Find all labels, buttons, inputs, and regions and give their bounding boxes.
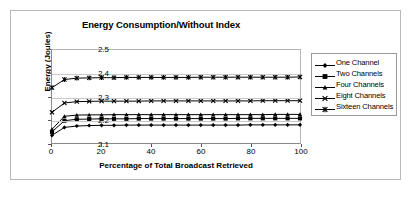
data-point-square: [112, 117, 116, 121]
figure-frame: Energy Consumption/Without Index Energy …: [10, 10, 401, 180]
data-point-diamond: [286, 123, 290, 127]
data-point-diamond: [137, 123, 141, 127]
legend-item-sixteen-channels[interactable]: Sixteen Channels: [314, 101, 394, 112]
data-point-square: [174, 117, 178, 121]
data-point-square: [186, 117, 190, 121]
data-point-diamond: [174, 123, 178, 127]
x-tick-label: 80: [236, 147, 266, 156]
x-tick-label: 20: [86, 147, 116, 156]
data-point-square: [236, 116, 240, 120]
x-tick-mark: [201, 144, 202, 147]
plot-wrapper: Energy (Joules) 2.12.22.32.42.5020406080…: [11, 11, 402, 181]
y-tick-mark: [48, 73, 51, 74]
data-point-x: [50, 110, 54, 114]
data-point-square: [124, 117, 128, 121]
x-tick-mark: [151, 144, 152, 147]
x-tick-mark: [301, 144, 302, 147]
legend-marker-diamond-icon: [314, 57, 336, 68]
data-point-square: [199, 117, 203, 121]
data-point-diamond: [124, 123, 128, 127]
data-point-square: [149, 117, 153, 121]
y-tick-mark: [48, 97, 51, 98]
x-tick-label: 40: [136, 147, 166, 156]
legend-label: Sixteen Channels: [336, 101, 393, 112]
x-tick-label: 100: [286, 147, 316, 156]
data-point-diamond: [149, 123, 153, 127]
legend-marker-triangle-icon: [314, 79, 336, 90]
data-point-square: [261, 116, 265, 120]
series-line: [52, 101, 300, 113]
data-point-asterisk: [50, 85, 54, 90]
legend-label: Eight Channels: [336, 90, 385, 101]
legend-label: One Channel: [336, 57, 379, 68]
legend-label: Two Channels: [336, 68, 382, 79]
data-point-diamond: [236, 123, 240, 127]
data-point-diamond: [186, 123, 190, 127]
data-point-square: [211, 117, 215, 121]
x-tick-label: 0: [36, 147, 66, 156]
x-tick-mark: [251, 144, 252, 147]
y-tick-label: 2.4: [69, 68, 109, 77]
data-point-diamond: [162, 123, 166, 127]
legend-marker-x-icon: [314, 90, 336, 101]
data-point-diamond: [261, 123, 265, 127]
data-point-square: [286, 116, 290, 120]
chart-legend: One ChannelTwo ChannelsFour ChannelsEigh…: [311, 53, 397, 116]
data-point-diamond: [224, 123, 228, 127]
y-tick-label: 2.2: [69, 116, 109, 125]
data-point-square: [137, 117, 141, 121]
x-tick-mark: [51, 144, 52, 147]
y-tick-mark: [48, 120, 51, 121]
legend-item-two-channels[interactable]: Two Channels: [314, 68, 394, 79]
legend-item-eight-channels[interactable]: Eight Channels: [314, 90, 394, 101]
x-axis-label: Percentage of Total Broadcast Retrieved: [51, 161, 301, 170]
y-tick-mark: [48, 49, 51, 50]
legend-marker-asterisk-icon: [314, 101, 336, 112]
data-point-diamond: [112, 123, 116, 127]
series-one-channel: [50, 123, 302, 138]
legend-item-one-channel[interactable]: One Channel: [314, 57, 394, 68]
data-point-square: [298, 116, 302, 120]
data-point-square: [162, 117, 166, 121]
legend-label: Four Channels: [336, 79, 384, 90]
x-tick-label: 60: [186, 147, 216, 156]
legend-marker-square-icon: [314, 68, 336, 79]
legend-item-four-channels[interactable]: Four Channels: [314, 79, 394, 90]
data-point-square: [248, 116, 252, 120]
y-tick-label: 2.5: [69, 45, 109, 54]
x-tick-mark: [101, 144, 102, 147]
data-point-diamond: [273, 123, 277, 127]
data-point-diamond: [248, 123, 252, 127]
data-point-diamond: [298, 123, 302, 127]
y-tick-label: 2.3: [69, 92, 109, 101]
data-point-square: [224, 117, 228, 121]
data-point-diamond: [211, 123, 215, 127]
data-point-diamond: [199, 123, 203, 127]
data-point-square: [273, 116, 277, 120]
